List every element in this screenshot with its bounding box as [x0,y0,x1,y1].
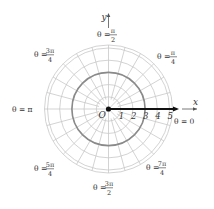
x-axis-label: x [193,97,198,107]
y-axis-arrow-icon [107,13,111,17]
tick-label-4: 4 [154,111,160,121]
y-axis-label: y [101,12,108,22]
fraction-denominator: 4 [48,56,52,64]
tick-label-1: 1 [119,111,124,121]
origin-label: O [99,110,107,120]
ray-arrowhead-icon [173,106,179,111]
fraction-numerator: 5π [46,161,55,169]
tick-label-2: 2 [130,111,136,121]
fraction-denominator: 4 [171,58,175,66]
fraction-denominator: 4 [48,170,52,178]
label-theta-pi: θ = π [12,105,33,114]
fraction-numerator: 3π [105,180,114,188]
tick-label-5: 5 [168,111,173,121]
x-axis-arrow-icon [193,107,197,111]
label-theta-5pi-over-4: θ =5π4 [34,161,55,178]
fraction-numerator: 7π [158,160,167,168]
label-theta-7pi-over-4: θ =7π4 [146,160,167,177]
label-theta-3pi-over-2: θ =3π2 [93,180,114,197]
polar-diagram: xyO12345 θ =π2θ =π4θ =3π4θ =5π4θ =7π4θ =… [0,0,214,209]
label-theta-pi-over-2: θ =π2 [97,27,117,44]
fraction-denominator: 4 [160,169,164,177]
fraction-numerator: π [111,27,116,35]
fraction-denominator: 2 [107,189,111,197]
tick-label-3: 3 [143,111,148,121]
fraction-numerator: 3π [46,47,55,55]
fraction-numerator: π [171,49,176,57]
label-theta-zero: θ = 0 [174,117,195,126]
theta-equals: θ = [97,30,110,39]
fraction-denominator: 2 [111,36,115,44]
polar-grid-svg: xyO12345 θ =π2θ =π4θ =3π4θ =5π4θ =7π4θ =… [0,0,214,209]
theta-equals: θ = [157,52,170,61]
origin-point [106,106,111,111]
label-theta-3pi-over-4: θ =3π4 [34,47,55,64]
label-theta-pi-over-4: θ =π4 [157,49,177,66]
